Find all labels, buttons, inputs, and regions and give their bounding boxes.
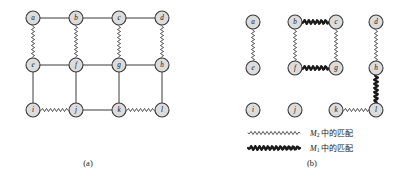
node-circle xyxy=(26,11,40,25)
node-panel-a-f: f xyxy=(69,58,83,72)
caption-b: (b) xyxy=(307,158,317,168)
caption-a: (a) xyxy=(83,158,93,168)
node-panel-a-j: j xyxy=(69,103,83,117)
node-circle xyxy=(329,61,343,75)
node-circle xyxy=(112,11,126,25)
legend-m2-label: M2 中的匹配 xyxy=(309,128,353,139)
node-panel-a-h: h xyxy=(155,58,169,72)
bipartite-matching-figure: abcdefghijklabcdefghijkl M2 中的匹配M1 中的匹配 … xyxy=(0,0,405,187)
legend-m1-suffix: 中的匹配 xyxy=(319,143,353,153)
figure-background xyxy=(0,0,405,187)
node-circle xyxy=(69,103,83,117)
node-panel-b-h: h xyxy=(369,61,383,75)
node-panel-b-b: b xyxy=(288,15,302,29)
node-panel-a-k: k xyxy=(112,103,126,117)
node-circle xyxy=(329,15,343,29)
node-panel-b-e: e xyxy=(246,61,260,75)
node-circle xyxy=(288,103,302,117)
node-panel-a-e: e xyxy=(26,58,40,72)
node-panel-b-c: c xyxy=(329,15,343,29)
node-panel-a-g: g xyxy=(112,58,126,72)
node-circle xyxy=(288,15,302,29)
node-panel-b-j: j xyxy=(288,103,302,117)
node-panel-b-k: k xyxy=(329,103,343,117)
node-circle xyxy=(112,58,126,72)
node-panel-a-i: i xyxy=(26,103,40,117)
node-circle xyxy=(288,61,302,75)
node-panel-a-l: l xyxy=(155,103,169,117)
legend-m2-suffix: 中的匹配 xyxy=(319,128,353,138)
node-circle xyxy=(69,58,83,72)
node-circle xyxy=(26,103,40,117)
node-circle xyxy=(246,61,260,75)
node-circle xyxy=(329,103,343,117)
node-circle xyxy=(369,61,383,75)
node-circle xyxy=(155,103,169,117)
node-circle xyxy=(112,103,126,117)
node-panel-a-d: d xyxy=(155,11,169,25)
node-circle xyxy=(369,103,383,117)
node-panel-a-a: a xyxy=(26,11,40,25)
node-panel-b-f: f xyxy=(288,61,302,75)
node-panel-b-i: i xyxy=(246,103,260,117)
node-circle xyxy=(246,103,260,117)
legend-m1-label: M1 中的匹配 xyxy=(309,143,353,154)
node-circle xyxy=(69,11,83,25)
node-panel-a-b: b xyxy=(69,11,83,25)
node-circle xyxy=(369,15,383,29)
node-panel-b-g: g xyxy=(329,61,343,75)
figure-container: abcdefghijklabcdefghijkl M2 中的匹配M1 中的匹配 … xyxy=(0,0,405,187)
node-circle xyxy=(155,58,169,72)
node-panel-b-a: a xyxy=(246,15,260,29)
node-circle xyxy=(155,11,169,25)
node-panel-b-l: l xyxy=(369,103,383,117)
node-circle xyxy=(26,58,40,72)
node-panel-a-c: c xyxy=(112,11,126,25)
edge-h-l xyxy=(374,75,378,104)
node-panel-b-d: d xyxy=(369,15,383,29)
node-circle xyxy=(246,15,260,29)
